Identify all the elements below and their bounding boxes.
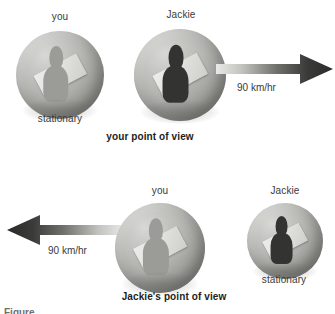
figure-caption-clipped: Figure (4, 307, 35, 314)
sphere-you-top (16, 31, 104, 119)
label-you-bottom: you (152, 185, 168, 196)
sphere-jackie-bottom (247, 203, 323, 279)
caption-your-point-of-view: your point of view (106, 131, 193, 142)
figure-body (143, 238, 168, 275)
sphere-you-bottom (115, 203, 205, 293)
label-stationary-you-top: stationary (38, 113, 82, 124)
figure-body (44, 66, 69, 102)
figure-body (271, 233, 292, 264)
velocity-arrow-left (6, 215, 124, 245)
relative-motion-figure: you stationary Jackie (0, 0, 335, 314)
person-figure-jackie-bottom (269, 216, 298, 266)
speed-label-top: 90 km/hr (237, 82, 276, 93)
person-figure-jackie-top (161, 45, 196, 106)
velocity-arrow-right (216, 54, 334, 84)
speed-label-bottom: 90 km/hr (48, 245, 87, 256)
person-figure-you-bottom (141, 218, 175, 277)
label-stationary-jackie-bottom: stationary (262, 274, 306, 285)
person-figure-you-top (42, 46, 75, 104)
label-you-top: you (52, 11, 68, 22)
label-jackie-bottom: Jackie (271, 185, 300, 196)
figure-body (163, 65, 189, 103)
caption-jackies-point-of-view: Jackie's point of view (122, 291, 227, 302)
label-jackie-top: Jackie (167, 9, 196, 20)
sphere-jackie-top (134, 29, 226, 121)
